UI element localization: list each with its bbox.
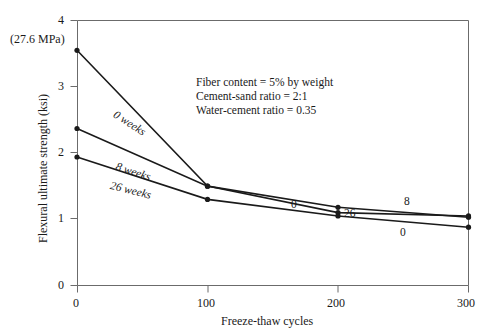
mpa-equivalent-note: (27.6 MPa) [10, 32, 65, 47]
end-label-0-right: 0 [400, 226, 406, 238]
x-tick-label-300: 300 [457, 296, 475, 311]
y-tick-label-4: 4 [58, 13, 64, 28]
y-axis-ticks [71, 21, 78, 286]
plot-frame [78, 21, 469, 286]
figure-canvas: 4 3 2 1 0 0 100 200 300 Freeze-thaw cycl… [0, 0, 479, 334]
x-tick-label-0: 0 [73, 296, 79, 311]
x-axis-title: Freeze-thaw cycles [221, 314, 313, 329]
end-label-0-left: 0 [291, 198, 297, 210]
condition-water-cement-ratio: Water-cement ratio = 0.35 [196, 103, 316, 117]
y-tick-label-2: 2 [58, 145, 64, 160]
x-axis-ticks [78, 286, 469, 293]
condition-cement-sand-ratio: Cement-sand ratio = 2:1 [196, 89, 308, 103]
y-tick-label-3: 3 [58, 79, 64, 94]
y-tick-label-0: 0 [58, 278, 64, 293]
y-axis-title: Flexural ultimate strength (ksi) [36, 94, 51, 243]
x-tick-label-100: 100 [197, 296, 215, 311]
condition-fiber-content: Fiber content = 5% by weight [196, 75, 333, 89]
end-label-8: 8 [404, 195, 410, 207]
y-tick-label-1: 1 [58, 211, 64, 226]
end-label-26: 26 [344, 207, 356, 219]
x-tick-label-200: 200 [327, 296, 345, 311]
chart-plot-area [0, 0, 479, 334]
